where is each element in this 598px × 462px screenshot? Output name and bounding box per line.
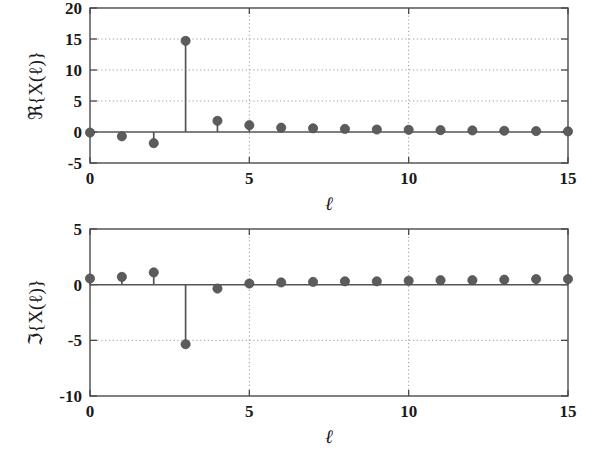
stem-marker [245, 121, 254, 130]
stem-marker [532, 275, 541, 284]
stem-marker [468, 276, 477, 285]
stem-marker [340, 124, 349, 133]
stem-marker [563, 275, 572, 284]
y-tick-label: -5 [68, 154, 82, 173]
stem-marker [436, 276, 445, 285]
x-tick-label: 15 [560, 169, 577, 188]
x-axis-title: ℓ [325, 426, 333, 447]
stem-marker [308, 277, 317, 286]
y-tick-label: -5 [68, 331, 82, 350]
stem-marker [340, 277, 349, 286]
x-tick-label: 0 [86, 169, 95, 188]
x-tick-label: 5 [245, 402, 254, 421]
stem-marker [149, 268, 158, 277]
y-tick-label: 15 [65, 30, 82, 49]
y-tick-label: 0 [74, 123, 83, 142]
y-tick-label: 0 [74, 276, 83, 295]
x-axis-title: ℓ [325, 193, 333, 214]
stem-plot-figure: -505101520051015ℓℜ{X(ℓ)} -10-505051015ℓℑ… [0, 0, 598, 462]
y-axis-label: ℜ{X(ℓ)} [25, 51, 47, 120]
stem-marker [85, 128, 94, 137]
stem-marker [277, 278, 286, 287]
stem-marker [436, 126, 445, 135]
stem-marker [404, 125, 413, 134]
stem-marker [245, 279, 254, 288]
x-tick-label: 5 [245, 169, 254, 188]
y-tick-label: -10 [59, 387, 82, 406]
y-tick-label: 5 [74, 92, 83, 111]
stem-marker [468, 126, 477, 135]
x-tick-label: 15 [560, 402, 577, 421]
y-tick-label: 20 [65, 0, 82, 18]
stem-marker [117, 272, 126, 281]
stem-marker [149, 139, 158, 148]
x-tick-label: 10 [400, 402, 417, 421]
stem-marker [404, 276, 413, 285]
y-tick-label: 10 [65, 61, 82, 80]
stem-marker [532, 126, 541, 135]
stem-marker [372, 125, 381, 134]
stem-marker [500, 126, 509, 135]
stem-marker [213, 284, 222, 293]
stem-marker [117, 132, 126, 141]
stem-marker [213, 116, 222, 125]
stem-marker [308, 124, 317, 133]
stem-marker [181, 340, 190, 349]
y-axis-label: ℑ{X(ℓ)} [25, 279, 47, 346]
stem-marker [277, 123, 286, 132]
stem-marker [372, 277, 381, 286]
stem-marker [85, 274, 94, 283]
x-tick-label: 10 [400, 169, 417, 188]
stem-marker [181, 36, 190, 45]
x-tick-label: 0 [86, 402, 95, 421]
stem-marker [563, 127, 572, 136]
y-tick-label: 5 [74, 220, 83, 239]
stem-marker [500, 275, 509, 284]
